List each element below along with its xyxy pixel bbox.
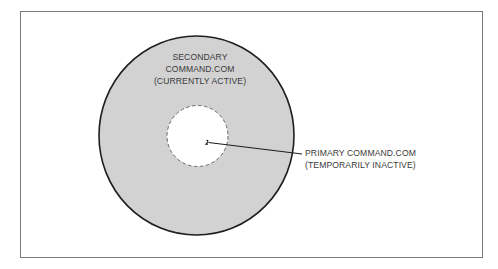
primary-label-line-2: (TEMPORARILY INACTIVE)	[305, 160, 416, 172]
secondary-label-line-1: SECONDARY	[140, 51, 260, 63]
primary-label-line-1: PRIMARY COMMAND.COM	[305, 148, 416, 160]
diagram-canvas	[0, 0, 498, 269]
secondary-label-line-2: COMMAND.COM	[140, 63, 260, 75]
secondary-command-com-label: SECONDARY COMMAND.COM (CURRENTLY ACTIVE)	[140, 51, 260, 87]
secondary-label-line-3: (CURRENTLY ACTIVE)	[140, 75, 260, 87]
primary-command-com-label: PRIMARY COMMAND.COM (TEMPORARILY INACTIV…	[305, 148, 416, 171]
primary-command-com-circle	[167, 106, 228, 167]
